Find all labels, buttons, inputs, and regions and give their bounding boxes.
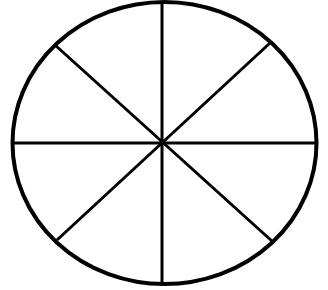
- eight-section-circle-diagram: [0, 0, 328, 290]
